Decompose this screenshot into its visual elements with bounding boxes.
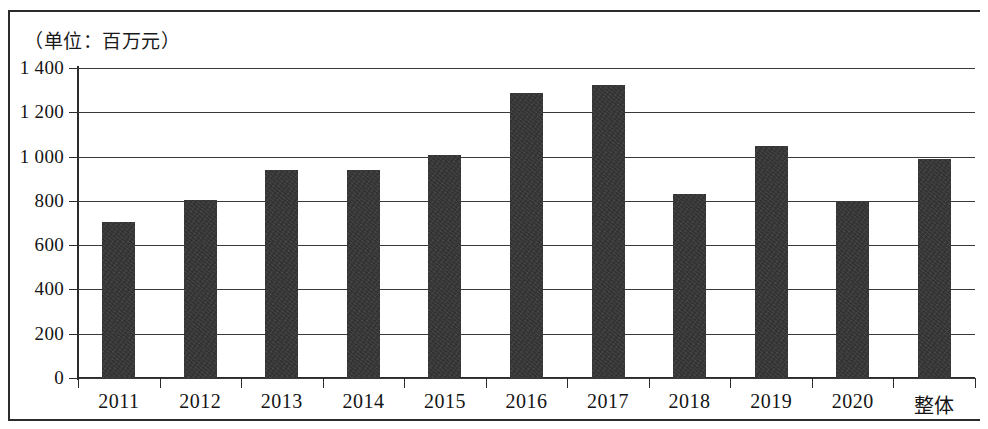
bar — [918, 159, 951, 378]
y-axis-tick-label: 0 — [54, 367, 64, 389]
bar — [102, 222, 135, 378]
y-axis-tick — [69, 68, 78, 69]
x-axis-tick-label: 2017 — [567, 390, 649, 413]
x-axis-tick — [812, 378, 813, 388]
y-axis-tick — [69, 201, 78, 202]
x-axis-tick-label: 2011 — [78, 390, 160, 413]
plot-area — [78, 68, 975, 378]
y-axis-tick — [69, 157, 78, 158]
bar — [265, 170, 298, 378]
x-axis-tick — [160, 378, 161, 388]
y-axis-tick-label: 1 400 — [20, 57, 64, 79]
x-axis-tick-label: 2012 — [160, 390, 242, 413]
x-axis-tick — [241, 378, 242, 388]
x-axis-tick — [486, 378, 487, 388]
x-axis-tick — [649, 378, 650, 388]
chart-figure: （单位：百万元） 02004006008001 0001 2001 400 20… — [0, 0, 988, 429]
x-axis-tick — [730, 378, 731, 388]
y-axis-tick-label: 200 — [35, 323, 64, 345]
bar — [673, 194, 706, 378]
x-axis-tick — [404, 378, 405, 388]
bar — [184, 200, 217, 378]
x-axis-tick-label: 2013 — [241, 390, 323, 413]
y-axis-tick — [69, 378, 78, 379]
y-axis-tick-label: 800 — [35, 190, 64, 212]
x-axis-tick — [323, 378, 324, 388]
x-axis-tick — [893, 378, 894, 388]
x-axis-tick-label: 2018 — [649, 390, 731, 413]
gridline — [78, 378, 975, 379]
x-axis-tick-label: 整体 — [893, 390, 975, 419]
y-axis-tick-label: 400 — [35, 278, 64, 300]
gridline — [78, 68, 975, 69]
x-axis-tick-label: 2016 — [486, 390, 568, 413]
unit-caption: （单位：百万元） — [24, 26, 180, 53]
bar — [428, 155, 461, 378]
x-axis-tick — [78, 378, 79, 388]
y-axis-tick — [69, 289, 78, 290]
y-axis-tick — [69, 112, 78, 113]
bar — [510, 93, 543, 378]
x-axis-tick-label: 2020 — [812, 390, 894, 413]
x-axis-tick-label: 2015 — [404, 390, 486, 413]
bar — [592, 85, 625, 378]
y-axis-tick-label: 1 000 — [20, 146, 64, 168]
x-axis-tick-label: 2019 — [730, 390, 812, 413]
y-axis-tick — [69, 245, 78, 246]
bar — [755, 146, 788, 379]
y-axis-tick — [69, 334, 78, 335]
y-axis-labels: 02004006008001 0001 2001 400 — [0, 68, 64, 378]
x-axis-tick — [567, 378, 568, 388]
bar — [836, 202, 869, 378]
x-axis-tick — [975, 378, 976, 388]
bar — [347, 170, 380, 378]
x-axis-tick-label: 2014 — [323, 390, 405, 413]
y-axis-tick-label: 1 200 — [20, 101, 64, 123]
y-axis-tick-label: 600 — [35, 234, 64, 256]
